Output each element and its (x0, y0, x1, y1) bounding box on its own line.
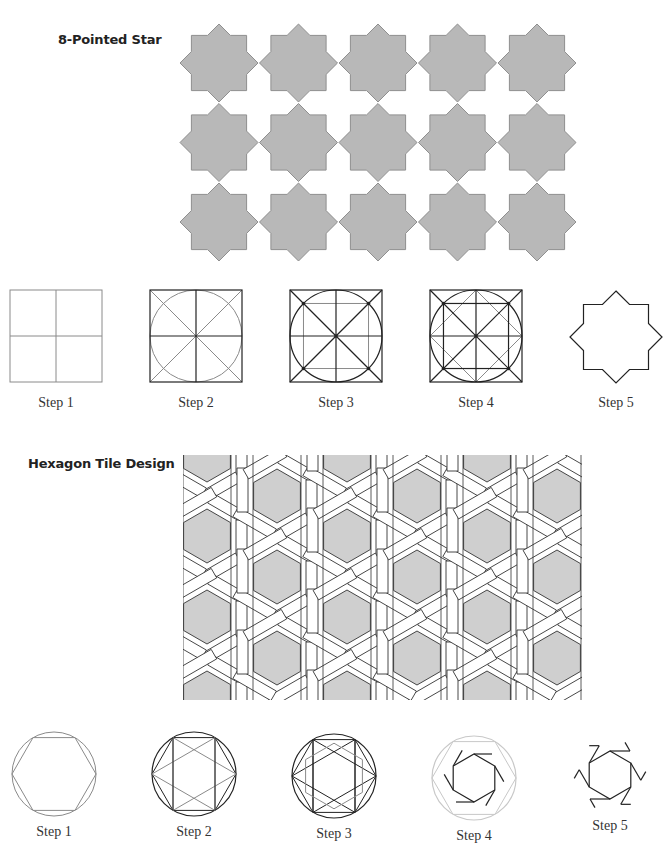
star-step-1-figure (10, 290, 102, 382)
star-tile (498, 24, 576, 102)
star-step-5-figure (570, 291, 662, 383)
hexagon-tile-pattern (163, 406, 601, 746)
hex-step-label-4: Step 4 (456, 828, 491, 844)
star-tile (339, 183, 417, 261)
hex-step-2-figure (152, 732, 236, 816)
hex-step-4-figure (432, 736, 516, 820)
star-step-2-figure (150, 290, 242, 382)
star-construction-steps (10, 290, 662, 383)
hex-step-3-figure (292, 734, 376, 818)
star-step-label-2: Step 2 (178, 395, 213, 411)
star-step-label-5: Step 5 (598, 395, 633, 411)
star-tile (180, 104, 258, 182)
star-tile (498, 104, 576, 182)
hex-step-label-5: Step 5 (592, 818, 627, 834)
star-tile-grid (180, 24, 576, 261)
hexagon-construction-steps (12, 732, 646, 820)
star-tile (180, 24, 258, 102)
star-step-3-figure (290, 290, 382, 382)
star-step-label-4: Step 4 (458, 395, 493, 411)
hex-step-label-3: Step 3 (316, 826, 351, 842)
star-tile (419, 104, 497, 182)
star-tile (260, 24, 338, 102)
star-tile (180, 183, 258, 261)
star-step-label-3: Step 3 (318, 395, 353, 411)
star-tile (419, 183, 497, 261)
star-tile (339, 24, 417, 102)
star-tile (339, 104, 417, 182)
star-tile (419, 24, 497, 102)
hex-step-label-1: Step 1 (36, 824, 71, 840)
star-step-label-1: Step 1 (38, 395, 73, 411)
hex-step-5-figure (574, 742, 646, 807)
star-step-4-figure (430, 290, 522, 382)
hex-step-1-figure (12, 732, 96, 816)
star-tile (498, 183, 576, 261)
hex-step-label-2: Step 2 (176, 824, 211, 840)
star-tile (260, 183, 338, 261)
star-tile (260, 104, 338, 182)
